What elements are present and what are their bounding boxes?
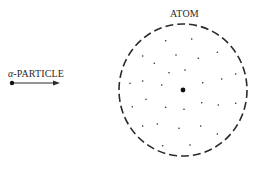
electron-dot: [235, 73, 237, 75]
electron-dot: [184, 69, 186, 71]
electron-dot: [178, 128, 180, 130]
electron-dot: [162, 145, 164, 147]
electron-dot: [129, 83, 131, 85]
electron-dot: [161, 84, 163, 86]
electron-dot: [191, 38, 193, 40]
electron-dot: [200, 125, 202, 127]
atom-diagram: [0, 0, 268, 171]
electron-dot: [145, 99, 147, 101]
electron-dot: [202, 82, 204, 84]
electron-dot: [235, 103, 237, 105]
electron-dot: [218, 104, 220, 106]
electron-dot: [165, 107, 167, 109]
electron-dot: [201, 102, 203, 104]
electron-dot: [142, 55, 144, 57]
electron-dot: [142, 125, 144, 127]
electron-dot: [189, 144, 191, 146]
electron-dot: [154, 63, 156, 65]
alpha-particle-dot: [10, 81, 14, 85]
electron-dot: [198, 58, 200, 60]
electron-dot: [165, 40, 167, 42]
electron-dot: [183, 109, 185, 111]
electron-dot: [175, 54, 177, 56]
electron-dot: [168, 72, 170, 74]
electron-dot: [221, 78, 223, 80]
nucleus: [181, 88, 186, 93]
arrow-head-icon: [53, 81, 60, 86]
electron-dot: [132, 106, 134, 108]
electron-dot: [217, 133, 219, 135]
electron-dot: [157, 123, 159, 125]
alpha-particle-arrow: [10, 81, 60, 86]
electron-dot: [142, 80, 144, 82]
atom: [119, 24, 247, 156]
electron-dot: [217, 52, 219, 54]
